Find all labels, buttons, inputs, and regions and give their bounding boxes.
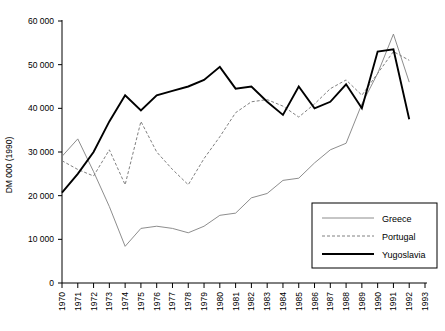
x-axis: 1970197119721973197419751976197719781979… <box>57 283 430 311</box>
x-tick-label: 1984 <box>278 292 288 311</box>
x-tick-label: 1988 <box>341 292 351 311</box>
x-tick-label: 1982 <box>246 292 256 311</box>
x-tick-label: 1989 <box>357 292 367 311</box>
x-tick-label: 1974 <box>120 292 130 311</box>
x-tick-label: 1970 <box>57 292 67 311</box>
x-tick-label: 1983 <box>262 292 272 311</box>
legend-label-yugoslavia: Yugoslavia <box>382 250 426 260</box>
y-axis-title: DM 000 (1990) <box>4 136 14 193</box>
chart-legend: GreecePortugalYugoslavia <box>312 203 437 268</box>
y-tick-label: 40 000 <box>28 103 54 113</box>
legend-label-portugal: Portugal <box>382 232 416 242</box>
x-tick-label: 1981 <box>231 292 241 311</box>
y-tick-label: 20 000 <box>28 191 54 201</box>
chart-canvas: 010 00020 00030 00040 00050 00060 000 19… <box>0 0 445 331</box>
series-line-yugoslavia <box>62 49 409 192</box>
y-tick-label: 10 000 <box>28 234 54 244</box>
x-tick-label: 1976 <box>152 292 162 311</box>
x-tick-label: 1972 <box>89 292 99 311</box>
x-tick-label: 1977 <box>167 292 177 311</box>
x-tick-label: 1985 <box>294 292 304 311</box>
y-axis: 010 00020 00030 00040 00050 00060 000 <box>28 16 62 288</box>
x-tick-label: 1979 <box>199 292 209 311</box>
y-tick-label: 60 000 <box>28 16 54 26</box>
y-tick-label: 0 <box>49 278 54 288</box>
x-tick-label: 1986 <box>310 292 320 311</box>
x-tick-label: 1973 <box>104 292 114 311</box>
x-tick-label: 1987 <box>325 292 335 311</box>
x-tick-label: 1975 <box>136 292 146 311</box>
legend-label-greece: Greece <box>382 214 412 224</box>
x-tick-label: 1991 <box>388 292 398 311</box>
x-tick-label: 1990 <box>373 292 383 311</box>
x-tick-label: 1978 <box>183 292 193 311</box>
x-tick-label: 1992 <box>404 292 414 311</box>
y-tick-label: 50 000 <box>28 60 54 70</box>
series-line-portugal <box>62 52 409 185</box>
line-chart: 010 00020 00030 00040 00050 00060 000 19… <box>0 0 445 331</box>
x-tick-label: 1971 <box>73 292 83 311</box>
x-tick-label: 1980 <box>215 292 225 311</box>
x-tick-label: 1993 <box>420 292 430 311</box>
y-tick-label: 30 000 <box>28 147 54 157</box>
